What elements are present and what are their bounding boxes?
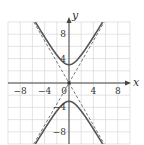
axes — [8, 17, 131, 144]
x-tick-label: −4 — [38, 86, 52, 96]
y-tick-label: −4 — [53, 102, 67, 112]
y-tick-label: −8 — [53, 127, 67, 137]
x-tick-label: 0 — [61, 86, 67, 96]
x-tick-label: 4 — [91, 86, 97, 96]
x-tick-label: −8 — [14, 86, 28, 96]
y-tick-label: 4 — [60, 54, 66, 64]
hyperbola-plot: −8−404884−4−8 x y — [0, 0, 144, 145]
y-axis-label: y — [71, 9, 79, 22]
y-tick-label: 8 — [60, 29, 66, 39]
x-tick-label: 8 — [115, 86, 121, 96]
origin-marker — [68, 82, 71, 85]
x-axis-label: x — [133, 76, 140, 89]
y-axis-arrow-icon — [67, 17, 72, 23]
